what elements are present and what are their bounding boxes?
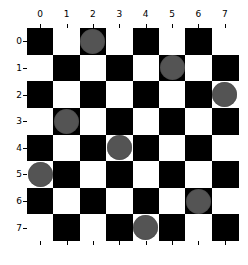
x-tick-mark-bottom — [119, 241, 120, 245]
y-tick-mark — [23, 201, 27, 202]
x-tick-mark — [93, 24, 94, 28]
board-cell — [185, 214, 212, 241]
x-tick-mark — [198, 24, 199, 28]
x-tick-mark — [146, 24, 147, 28]
x-tick-mark-bottom — [172, 241, 173, 245]
y-tick-label: 5 — [14, 169, 22, 179]
board-cell — [53, 28, 80, 55]
board-cell — [133, 135, 160, 162]
y-tick-mark — [23, 148, 27, 149]
board-cell — [53, 188, 80, 215]
queen-piece-icon — [160, 55, 185, 80]
board-cell — [106, 28, 133, 55]
board-cell — [185, 161, 212, 188]
board-cell — [159, 108, 186, 135]
board-cell — [106, 214, 133, 241]
board-cell — [212, 28, 239, 55]
board-cell — [212, 214, 239, 241]
board-cell — [106, 81, 133, 108]
board-cell — [27, 108, 54, 135]
board-cell — [212, 188, 239, 215]
y-tick-label: 3 — [14, 116, 22, 126]
x-tick-mark — [119, 24, 120, 28]
x-tick-label: 5 — [164, 9, 180, 19]
board-cell — [27, 81, 54, 108]
y-tick-label: 7 — [14, 223, 22, 233]
board-cell — [106, 108, 133, 135]
board-cell — [159, 214, 186, 241]
board-cell — [27, 55, 54, 82]
board-cell — [106, 55, 133, 82]
board-cell — [159, 161, 186, 188]
queen-piece-icon — [186, 189, 211, 214]
board-cell — [185, 28, 212, 55]
y-tick-mark — [23, 95, 27, 96]
x-tick-label: 4 — [138, 9, 154, 19]
board-cell — [212, 55, 239, 82]
y-tick-label: 2 — [14, 90, 22, 100]
x-tick-mark — [172, 24, 173, 28]
y-tick-mark — [23, 68, 27, 69]
board-cell — [159, 188, 186, 215]
y-tick-label: 4 — [14, 143, 22, 153]
board-cell — [185, 135, 212, 162]
y-tick-label: 0 — [14, 36, 22, 46]
queen-piece-icon — [107, 135, 132, 160]
board-cell — [212, 135, 239, 162]
board-cell — [80, 161, 107, 188]
x-tick-label: 1 — [59, 9, 75, 19]
board-cell — [133, 108, 160, 135]
board-cell — [80, 81, 107, 108]
board-cell — [53, 214, 80, 241]
board-cell — [185, 55, 212, 82]
board-cell — [27, 214, 54, 241]
board-cell — [133, 28, 160, 55]
x-tick-mark-bottom — [225, 241, 226, 245]
x-tick-label: 6 — [190, 9, 206, 19]
queen-piece-icon — [28, 162, 53, 187]
queen-piece-icon — [54, 109, 79, 134]
x-tick-mark — [40, 24, 41, 28]
board-cell — [80, 214, 107, 241]
board-cell — [212, 161, 239, 188]
board-cell — [212, 108, 239, 135]
y-tick-label: 6 — [14, 196, 22, 206]
board-cell — [53, 55, 80, 82]
x-tick-mark — [67, 24, 68, 28]
y-tick-mark — [23, 174, 27, 175]
x-tick-label: 7 — [217, 9, 233, 19]
board-cell — [80, 135, 107, 162]
board-cell — [159, 81, 186, 108]
board-cell — [27, 28, 54, 55]
x-tick-label: 0 — [32, 9, 48, 19]
x-tick-mark-bottom — [67, 241, 68, 245]
board-cell — [80, 108, 107, 135]
x-tick-label: 2 — [85, 9, 101, 19]
x-tick-mark — [225, 24, 226, 28]
board-cell — [53, 135, 80, 162]
x-tick-mark-bottom — [93, 241, 94, 245]
board-cell — [80, 188, 107, 215]
y-tick-mark — [23, 121, 27, 122]
x-tick-mark-bottom — [198, 241, 199, 245]
board-cell — [133, 81, 160, 108]
x-tick-mark-bottom — [40, 241, 41, 245]
y-tick-label: 1 — [14, 63, 22, 73]
board-cell — [27, 188, 54, 215]
board-cell — [106, 188, 133, 215]
y-tick-mark — [23, 41, 27, 42]
x-tick-mark-bottom — [146, 241, 147, 245]
board-cell — [133, 161, 160, 188]
y-tick-mark — [23, 228, 27, 229]
board-cell — [133, 55, 160, 82]
board-cell — [159, 135, 186, 162]
board-cell — [185, 108, 212, 135]
board-cell — [80, 55, 107, 82]
x-tick-label: 3 — [111, 9, 127, 19]
board-cell — [159, 28, 186, 55]
board-cell — [133, 188, 160, 215]
board-cell — [27, 135, 54, 162]
board-cell — [106, 161, 133, 188]
board-cell — [53, 81, 80, 108]
board-cell — [185, 81, 212, 108]
